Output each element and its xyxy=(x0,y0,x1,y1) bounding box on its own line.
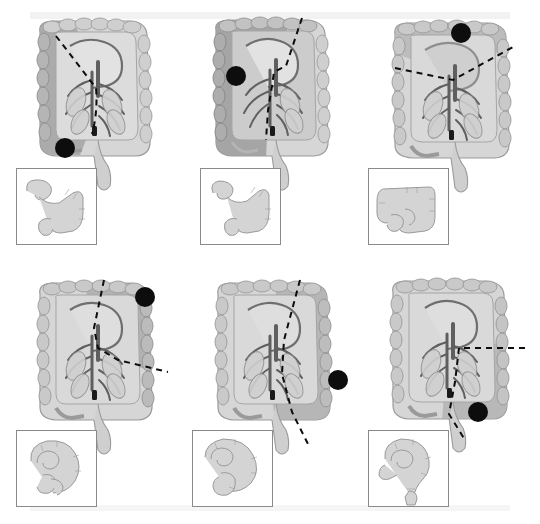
tumor-marker xyxy=(55,138,75,158)
lymph-node-marker xyxy=(449,130,454,140)
panel-e-extended-left-hemicolectomy xyxy=(180,262,360,524)
inset-postop-anatomy xyxy=(200,168,281,245)
inset-colon-shape xyxy=(27,180,83,236)
tumor-marker xyxy=(328,370,348,390)
colon-outline xyxy=(215,278,340,454)
lymph-node-marker xyxy=(92,126,97,136)
lymph-node-marker xyxy=(270,126,275,136)
inset-postop-anatomy xyxy=(16,430,97,507)
tumor-marker xyxy=(451,23,471,43)
inset-colon-shape xyxy=(377,187,435,233)
colon-outline xyxy=(210,16,330,190)
inset-colon-shape xyxy=(205,439,257,495)
inset-colon-shape xyxy=(379,439,429,505)
tumor-marker xyxy=(226,66,246,86)
panel-d-left-hemicolectomy xyxy=(0,262,180,524)
inset-colon-shape xyxy=(212,181,269,235)
panel-f-sigmoid-colectomy xyxy=(355,262,535,524)
inset-postop-anatomy xyxy=(192,430,273,507)
panel-b-extended-right-hemicolectomy xyxy=(180,0,360,262)
lymph-node-marker xyxy=(447,388,452,398)
lymph-node-marker xyxy=(270,390,275,400)
tumor-marker xyxy=(468,402,488,422)
inset-postop-anatomy xyxy=(368,430,449,507)
inset-colon-shape xyxy=(31,441,79,495)
inset-postop-anatomy xyxy=(16,168,97,245)
panel-c-transverse-colectomy xyxy=(355,0,535,262)
colon-outline xyxy=(390,278,525,452)
tumor-marker xyxy=(135,287,155,307)
colon-outline xyxy=(389,18,515,192)
panel-a-right-hemicolectomy xyxy=(0,0,180,262)
colon-outline xyxy=(36,18,152,190)
colectomy-figure xyxy=(0,0,540,524)
lymph-node-marker xyxy=(92,390,97,400)
inset-postop-anatomy xyxy=(368,168,449,245)
